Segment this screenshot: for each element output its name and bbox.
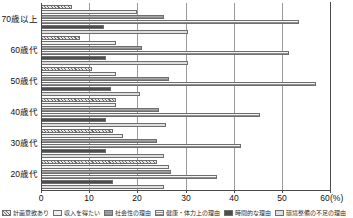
y-axis-label-2: 50歳代 — [0, 76, 38, 86]
x-tick-label-40: 40 — [229, 193, 238, 203]
bar-50s-s1 — [41, 72, 116, 76]
x-tick-label-10: 10 — [84, 193, 93, 203]
y-axis-label-3: 40歳代 — [0, 107, 38, 117]
legend-label-3: 健康・体力上の理由 — [166, 210, 220, 217]
bar-60s-s2 — [41, 46, 142, 50]
gridline-40 — [234, 3, 235, 191]
bar-20s-s2 — [41, 170, 171, 174]
legend-label-2: 社会性の理由 — [115, 210, 151, 217]
bar-40s-s2 — [41, 108, 159, 112]
legend-label-4: 時間的な理由 — [235, 210, 271, 217]
bar-20s-s0 — [41, 160, 157, 164]
bar-60s-s1 — [41, 41, 116, 45]
bar-40s-s3 — [41, 113, 260, 117]
legend-item-4: 時間的な理由 — [224, 210, 271, 217]
y-axis-label-1: 60歳代 — [0, 45, 38, 55]
gridline-50 — [282, 3, 283, 191]
bar-50s-s4 — [41, 87, 111, 91]
bar-60s-s5 — [41, 61, 188, 65]
x-axis-unit-label: (%) — [330, 193, 343, 203]
legend-item-0: 計画意欲あり — [2, 210, 49, 217]
bar-30s-s0 — [41, 129, 113, 133]
y-axis-label-5: 20歳代 — [0, 169, 38, 179]
bar-30s-s1 — [41, 134, 123, 138]
bar-60s-s3 — [41, 51, 289, 55]
gridline-60 — [330, 2, 331, 192]
bar-20s-s4 — [41, 180, 113, 184]
legend-swatch-solid-gray-icon — [104, 210, 113, 216]
bar-70plus-s3 — [41, 20, 299, 24]
legend-item-2: 社会性の理由 — [104, 210, 151, 217]
bar-40s-s0 — [41, 98, 116, 102]
bar-chart: 70歳以上 60歳代 50歳代 40歳代 30歳代 20歳代 — [0, 0, 353, 218]
legend-item-5: 環境整備の不足の理由 — [275, 210, 346, 217]
y-axis-label-0: 70歳以上 — [0, 14, 38, 24]
bar-60s-s4 — [41, 56, 106, 60]
legend-item-3: 健康・体力上の理由 — [155, 210, 220, 217]
legend-label-0: 計画意欲あり — [13, 210, 49, 217]
bar-70plus-s5 — [41, 30, 188, 34]
x-tick-label-0: 0 — [39, 193, 44, 203]
x-tick-label-50: 50 — [277, 193, 286, 203]
legend-swatch-diagonal-hatch-icon — [2, 210, 11, 216]
bar-30s-s2 — [41, 139, 157, 143]
bar-70plus-s4 — [41, 25, 104, 29]
bar-60s-s0 — [41, 36, 80, 40]
bar-30s-s4 — [41, 149, 106, 153]
bar-30s-s5 — [41, 154, 164, 158]
y-axis-line — [41, 3, 42, 191]
bar-40s-s1 — [41, 103, 116, 107]
bar-70plus-s2 — [41, 15, 164, 19]
chart-legend: 計画意欲あり 収入を得たい 社会性の理由 健康・体力上の理由 時間的な理由 環境… — [2, 208, 351, 218]
plot-area — [41, 3, 330, 191]
x-tick-label-60: 60 — [320, 193, 329, 203]
legend-label-5: 環境整備の不足の理由 — [286, 210, 346, 217]
bar-50s-s5 — [41, 92, 140, 96]
bar-20s-s1 — [41, 165, 169, 169]
bar-20s-s3 — [41, 175, 217, 179]
bar-20s-s5 — [41, 185, 164, 189]
legend-swatch-cross-hatch-icon — [53, 210, 62, 216]
bar-50s-s0 — [41, 67, 92, 71]
y-axis-label-4: 30歳代 — [0, 138, 38, 148]
x-tick-label-30: 30 — [181, 193, 190, 203]
legend-label-1: 収入を得たい — [64, 210, 100, 217]
bar-50s-s2 — [41, 77, 169, 81]
bar-70plus-s0 — [41, 5, 72, 9]
bar-30s-s3 — [41, 144, 241, 148]
legend-swatch-dark-solid-icon — [224, 210, 233, 216]
legend-swatch-dotted-icon — [275, 210, 284, 216]
x-tick-label-20: 20 — [132, 193, 141, 203]
bar-70plus-s1 — [41, 10, 137, 14]
bar-40s-s4 — [41, 118, 106, 122]
bar-50s-s3 — [41, 82, 316, 86]
legend-swatch-horizontal-line-icon — [155, 210, 164, 216]
bar-40s-s5 — [41, 123, 166, 127]
legend-item-1: 収入を得たい — [53, 210, 100, 217]
